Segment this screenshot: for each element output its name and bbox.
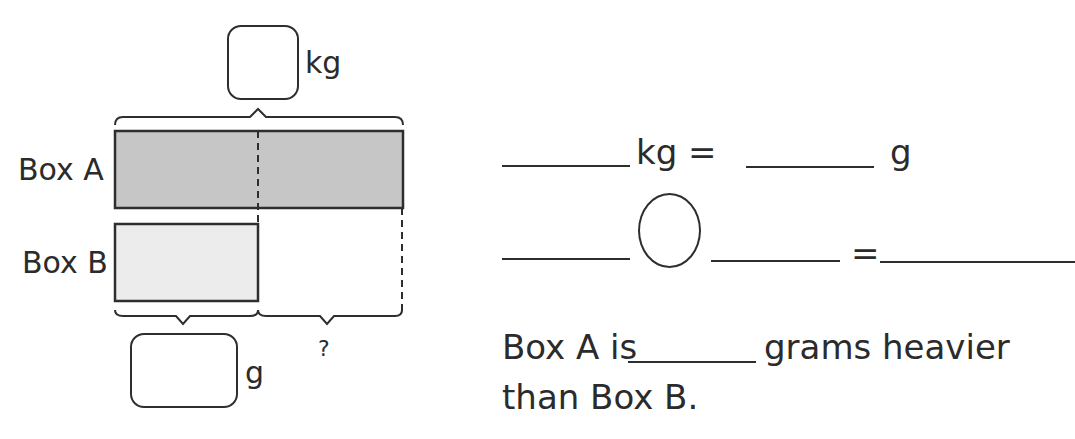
box-a-label: Box A [18, 155, 104, 185]
sentence-part1: Box A is [502, 330, 637, 364]
kg-equals-label: kg = [636, 135, 717, 169]
box-b-label: Box B [22, 248, 108, 278]
grams-unit-label: g [890, 135, 912, 169]
grams-blank[interactable] [746, 166, 874, 168]
box-b-bar [115, 224, 258, 301]
total-kg-answer-box[interactable] [227, 25, 299, 100]
difference-question-mark: ? [318, 336, 330, 361]
bottom-brace-box-b [115, 310, 258, 324]
sentence-line2: than Box B. [502, 380, 698, 414]
result-blank[interactable] [880, 261, 1075, 263]
box-b-grams-answer-box[interactable] [130, 333, 238, 408]
difference-grams-blank[interactable] [628, 361, 756, 363]
operand1-blank[interactable] [502, 258, 630, 260]
kg-blank[interactable] [502, 165, 630, 167]
equals-sign: = [851, 236, 880, 270]
sentence-part2: grams heavier [764, 330, 1010, 364]
box-b-unit-label: g [245, 358, 264, 388]
top-brace [115, 109, 403, 125]
bottom-brace-difference [258, 310, 402, 324]
operand2-blank[interactable] [711, 260, 840, 262]
operator-circle[interactable] [638, 193, 701, 268]
total-unit-label: kg [305, 48, 341, 78]
